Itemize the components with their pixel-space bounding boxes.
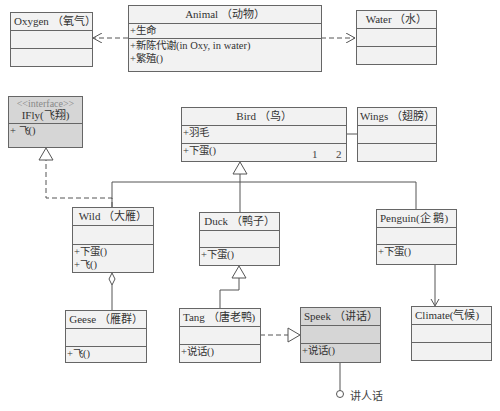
methods-section: +说话() [180, 345, 260, 359]
attributes-section [200, 231, 279, 248]
class-wings[interactable]: Wings （翅膀） [357, 107, 437, 162]
attributes-section [66, 329, 146, 347]
class-duck[interactable]: Duck （鸭子） +下蛋() [199, 212, 280, 266]
multiplicity-wings: 2 [336, 148, 342, 160]
class-penguin[interactable]: Penguin(企 鹅) +下蛋() [376, 209, 457, 265]
class-tang[interactable]: Tang （唐老鸭) +说话() [179, 308, 261, 363]
class-climate[interactable]: Climate(气候) [411, 306, 492, 361]
class-name: Wild （大雁） [73, 208, 153, 226]
methods-section [11, 49, 92, 63]
method: +繁殖() [130, 52, 320, 65]
attributes-section [377, 228, 456, 245]
method: +下蛋() [183, 144, 345, 157]
methods-section: + 飞() [9, 124, 82, 138]
realization-triangle-ifly [39, 148, 53, 160]
class-animal[interactable]: Animal （动物） +生命 +新陈代谢(in Oxy, in water) … [128, 5, 322, 72]
class-name: Animal （动物） [129, 6, 321, 24]
methods-section: +下蛋() +飞() [73, 245, 153, 271]
realization-wild-ifly [46, 160, 112, 207]
method: +下蛋() [378, 245, 455, 258]
attributes-section [11, 31, 92, 49]
class-name: Geese （雁群） [66, 311, 146, 329]
attributes-section [180, 327, 260, 345]
methods-section [357, 47, 436, 61]
class-wild[interactable]: Wild （大雁） +下蛋() +飞() [72, 207, 154, 273]
class-name: Penguin(企 鹅) [377, 210, 456, 228]
class-name: Bird （鸟） [182, 108, 346, 126]
generalization-triangle-bird [233, 162, 247, 174]
methods-section: +下蛋() [182, 144, 346, 158]
interface-name: IFly(飞翔) [22, 109, 70, 121]
attributes-section [301, 326, 380, 344]
attributes-section: +生命 [129, 24, 321, 39]
attributes-section [73, 226, 153, 245]
attributes-section [358, 126, 436, 144]
interface-ifly[interactable]: <<interface>> IFly(飞翔) + 飞() [8, 96, 83, 148]
class-name: Water （水） [357, 11, 436, 29]
class-name: <<interface>> IFly(飞翔) [9, 97, 82, 124]
class-water[interactable]: Water （水） [356, 10, 437, 65]
class-name: Wings （翅膀） [358, 108, 436, 126]
methods-section: +下蛋() [377, 245, 456, 259]
class-name: Oxygen （氧气） [11, 13, 92, 31]
class-name: Climate(气候) [412, 307, 491, 325]
method: +飞() [74, 258, 152, 271]
method: + 飞() [10, 124, 81, 137]
method: +下蛋() [201, 248, 278, 261]
generalization-triangle-duck [232, 266, 246, 278]
aggregation-diamond [109, 273, 115, 285]
class-name: Tang （唐老鸭) [180, 309, 260, 327]
realization-triangle-speek [288, 328, 300, 342]
attribute: +生命 [130, 24, 320, 37]
methods-section: +下蛋() [200, 248, 279, 262]
methods-section: +新陈代谢(in Oxy, in water) +繁殖() [129, 39, 321, 65]
methods-section [358, 144, 436, 158]
class-geese[interactable]: Geese （雁群） +飞() [65, 310, 147, 363]
method: +下蛋() [74, 245, 152, 258]
class-oxygen[interactable]: Oxygen （氧气） [10, 12, 93, 67]
lollipop-label: 讲人话 [350, 387, 383, 403]
attributes-section [412, 325, 491, 343]
methods-section [412, 343, 491, 357]
attributes-section: +羽毛 [182, 126, 346, 144]
class-bird[interactable]: Bird （鸟） +羽毛 +下蛋() [181, 107, 347, 162]
method: +说话() [181, 345, 259, 358]
lollipop-interface-icon [337, 391, 344, 398]
class-name: Speek （讲话） [301, 308, 380, 326]
class-name: Duck （鸭子） [200, 213, 279, 231]
attribute: +羽毛 [183, 126, 345, 139]
methods-section: +说话() [301, 344, 380, 358]
method: +说话() [302, 344, 379, 357]
method: +飞() [67, 347, 145, 360]
multiplicity-bird: 1 [312, 148, 318, 160]
attributes-section [357, 29, 436, 47]
interface-speek[interactable]: Speek （讲话） +说话() [300, 307, 381, 363]
method: +新陈代谢(in Oxy, in water) [130, 39, 320, 52]
stereotype: <<interface>> [9, 98, 82, 109]
methods-section: +飞() [66, 347, 146, 361]
